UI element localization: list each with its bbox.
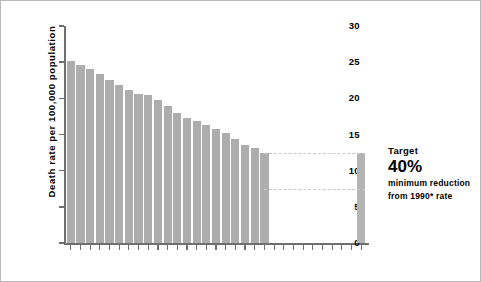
x-tick-mark — [138, 244, 139, 250]
y-tick-label: 25 — [334, 56, 360, 67]
annotation-line-1: minimum reduction — [388, 177, 481, 190]
bar — [134, 94, 142, 243]
bar — [67, 61, 75, 243]
x-tick-mark — [128, 244, 129, 250]
y-tick-mark — [59, 170, 64, 172]
target-annotation: Target 40% minimum reduction from 1990* … — [388, 144, 481, 203]
x-tick-mark — [80, 244, 81, 250]
reference-line-upper — [264, 153, 365, 154]
x-tick-mark — [206, 244, 207, 250]
x-tick-mark — [70, 244, 71, 250]
x-tick-mark — [274, 244, 275, 250]
bar — [86, 69, 94, 243]
target-bar — [357, 153, 365, 243]
y-axis-line — [64, 26, 66, 243]
bar — [144, 95, 152, 243]
bar — [212, 129, 220, 243]
x-tick-mark — [351, 244, 352, 250]
bar — [193, 121, 201, 243]
x-tick-mark — [215, 244, 216, 250]
x-tick-mark — [225, 244, 226, 250]
x-tick-mark — [293, 244, 294, 250]
bar — [231, 139, 239, 243]
x-tick-mark — [196, 244, 197, 250]
y-tick-label: 0 — [334, 237, 360, 248]
x-tick-mark — [99, 244, 100, 250]
bar — [173, 113, 181, 243]
y-tick-label: 20 — [334, 92, 360, 103]
y-tick-mark — [59, 242, 64, 244]
y-tick-label: 10 — [334, 165, 360, 176]
reference-line-lower — [264, 189, 365, 190]
x-tick-mark — [264, 244, 265, 250]
y-tick-label: 15 — [334, 129, 360, 140]
bar — [241, 145, 249, 243]
bar — [164, 106, 172, 243]
bar — [96, 74, 104, 243]
x-tick-mark — [167, 244, 168, 250]
y-tick-mark — [59, 98, 64, 100]
y-tick-mark — [59, 206, 64, 208]
x-tick-mark — [186, 244, 187, 250]
x-tick-mark — [157, 244, 158, 250]
x-tick-mark — [90, 244, 91, 250]
annotation-line-2: from 1990* rate — [388, 190, 481, 203]
x-tick-mark — [244, 244, 245, 250]
x-tick-mark — [177, 244, 178, 250]
y-tick-mark — [59, 134, 64, 136]
x-tick-mark — [235, 244, 236, 250]
y-tick-mark — [59, 25, 64, 27]
x-tick-mark — [283, 244, 284, 250]
bar — [125, 90, 133, 243]
x-tick-mark — [303, 244, 304, 250]
y-tick-label: 30 — [334, 20, 360, 31]
x-tick-mark — [119, 244, 120, 250]
bar — [260, 153, 268, 243]
bar — [154, 100, 162, 243]
y-tick-mark — [59, 61, 64, 63]
annotation-target-label: Target — [388, 144, 481, 157]
bar — [76, 65, 84, 243]
y-axis-title: Death rate per 100,000 population — [46, 0, 57, 232]
y-tick-label: 5 — [334, 201, 360, 212]
chart-page: Death rate per 100,000 population 051015… — [0, 0, 481, 282]
x-tick-mark — [361, 244, 362, 250]
x-tick-mark — [254, 244, 255, 250]
bar — [115, 85, 123, 243]
annotation-percent: 40% — [388, 157, 481, 177]
x-tick-mark — [332, 244, 333, 250]
bar — [222, 133, 230, 243]
x-tick-mark — [148, 244, 149, 250]
bar — [251, 148, 259, 243]
bar — [183, 118, 191, 243]
x-tick-mark — [312, 244, 313, 250]
x-tick-mark — [341, 244, 342, 250]
x-tick-mark — [322, 244, 323, 250]
x-tick-mark — [109, 244, 110, 250]
bar — [105, 80, 113, 243]
plot-area: 051015202530 197019731976197919821985198… — [64, 26, 369, 243]
bar — [202, 125, 210, 243]
